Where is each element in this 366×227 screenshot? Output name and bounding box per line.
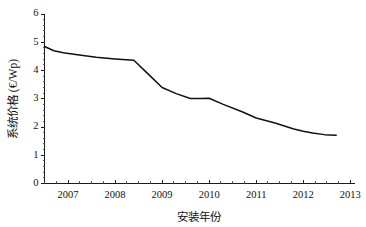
- x-tick-label: 2007: [58, 189, 79, 200]
- x-axis-major-ticks: [68, 180, 350, 184]
- y-tick-label: 6: [33, 7, 38, 18]
- y-axis-tick-labels: 0123456: [33, 7, 39, 188]
- y-tick-label: 3: [33, 92, 38, 103]
- x-tick-label: 2011: [246, 189, 267, 200]
- chart-container: 0123456 2007200820092010201120122013 安装年…: [0, 0, 366, 227]
- x-axis-title: 安装年份: [177, 210, 222, 223]
- x-tick-label: 2013: [340, 189, 361, 200]
- y-tick-label: 5: [33, 36, 38, 47]
- x-tick-label: 2008: [105, 189, 126, 200]
- y-axis-title: 系统价格 (€/Wp): [6, 59, 20, 139]
- y-tick-label: 1: [33, 149, 38, 160]
- x-tick-label: 2009: [152, 189, 173, 200]
- x-tick-label: 2010: [199, 189, 220, 200]
- series-line-system-price: [45, 46, 337, 135]
- x-tick-label: 2012: [293, 189, 314, 200]
- y-tick-label: 0: [33, 177, 38, 188]
- system-price-line-chart: 0123456 2007200820092010201120122013 安装年…: [0, 0, 366, 227]
- y-tick-label: 2: [33, 120, 38, 131]
- y-tick-label: 4: [33, 64, 39, 75]
- x-axis-tick-labels: 2007200820092010201120122013: [58, 189, 361, 200]
